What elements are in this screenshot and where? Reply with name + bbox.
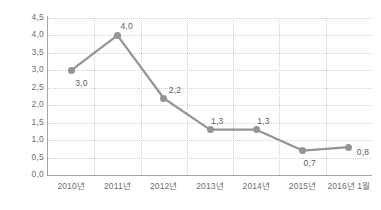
x-axis-tick-label: 2012년: [150, 181, 177, 191]
data-point-marker: [68, 67, 75, 74]
data-point-label: 2,2: [169, 86, 181, 95]
data-point-label: 4,0: [120, 22, 132, 31]
data-point-marker: [160, 95, 167, 102]
data-point-label: 0,8: [357, 148, 369, 157]
x-axis-tick-label: 2016년 1월: [327, 181, 370, 191]
x-axis-tick-label: 2013년: [196, 181, 223, 191]
data-point-label: 1,3: [257, 117, 269, 126]
series-line: [0, 0, 381, 210]
x-axis-tick-label: 2010년: [57, 181, 84, 191]
line-chart: 0,00,51,01,52,02,53,03,54,04,5 3,04,02,2…: [0, 0, 381, 210]
data-point-marker: [207, 126, 214, 133]
x-axis-tick-label: 2011년: [104, 181, 131, 191]
x-axis-tick-label: 2014년: [243, 181, 270, 191]
data-point-label: 1,3: [211, 117, 223, 126]
data-point-label: 0,7: [304, 159, 316, 168]
x-axis-tick-label: 2015년: [289, 181, 316, 191]
data-point-marker: [345, 144, 352, 151]
data-point-marker: [114, 32, 121, 39]
data-point-marker: [253, 126, 260, 133]
data-point-label: 3,0: [75, 79, 87, 88]
